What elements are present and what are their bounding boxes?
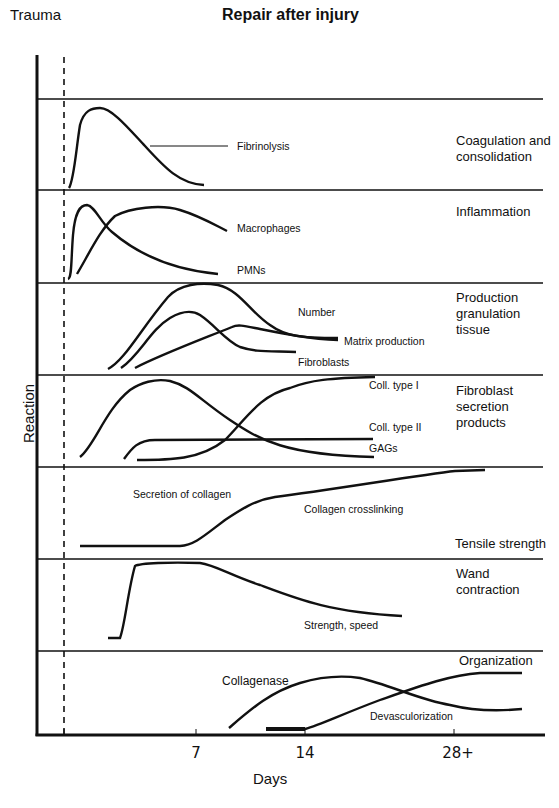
panel-title-line: Wand bbox=[456, 566, 520, 582]
label-fibroblasts: Fibroblasts bbox=[298, 356, 349, 368]
panel-title-inflammation: Inflammation bbox=[456, 204, 530, 220]
panel-title-fibroblast-secretion: Fibroblast secretion products bbox=[456, 383, 513, 431]
curve-tensile-strength bbox=[80, 470, 485, 546]
label-pmns: PMNs bbox=[237, 264, 266, 276]
panel-title-organization: Organization bbox=[459, 653, 533, 669]
panel-title-wand-contraction: Wand contraction bbox=[456, 566, 520, 598]
label-matrix-production: Matrix production bbox=[344, 335, 425, 347]
panel-title-tensile-strength: Tensile strength bbox=[455, 536, 546, 552]
panel-title-line: Fibroblast bbox=[456, 383, 513, 399]
label-strength-speed: Strength, speed bbox=[304, 619, 378, 631]
label-collagenase: Collagenase bbox=[222, 674, 289, 688]
panel-title-line: contraction bbox=[456, 582, 520, 598]
label-secretion-of-collagen: Secretion of collagen bbox=[133, 488, 231, 500]
panel-title-line: products bbox=[456, 415, 513, 431]
panel-title-line: Coagulation and bbox=[456, 133, 551, 149]
panel-title-granulation: Production granulation tissue bbox=[456, 290, 520, 338]
curve-coll-type-i bbox=[137, 377, 375, 460]
label-fibrinolysis: Fibrinolysis bbox=[237, 140, 290, 152]
label-number: Number bbox=[298, 306, 335, 318]
label-collagen-crosslinking: Collagen crosslinking bbox=[304, 503, 403, 515]
panel-title-line: secretion bbox=[456, 399, 513, 415]
label-coll-type-i: Coll. type I bbox=[369, 379, 419, 391]
label-gags: GAGs bbox=[369, 442, 398, 454]
panel-title-line: consolidation bbox=[456, 149, 551, 165]
label-macrophages: Macrophages bbox=[237, 222, 301, 234]
panel-title-line: tissue bbox=[456, 322, 520, 338]
curve-fibroblasts bbox=[121, 312, 296, 368]
label-coll-type-ii: Coll. type II bbox=[369, 421, 422, 433]
curve-fibrinolysis bbox=[69, 108, 204, 188]
panel-title-line: granulation bbox=[456, 306, 520, 322]
curve-gags bbox=[80, 380, 374, 457]
label-devasculorization: Devasculorization bbox=[370, 710, 453, 722]
panel-title-coagulation: Coagulation and consolidation bbox=[456, 133, 551, 165]
panel-title-line: Production bbox=[456, 290, 520, 306]
